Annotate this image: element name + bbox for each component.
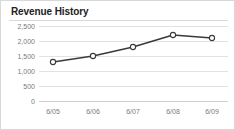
chart-plot-area: 2,500 2,000 1,500 1,000 500 0 6/05 6/06 … xyxy=(1,1,235,130)
x-tick-label-2: 6/06 xyxy=(86,108,100,115)
data-point-marker[interactable] xyxy=(209,35,214,40)
x-axis-tick-labels: 6/05 6/06 6/07 6/08 6/09 xyxy=(46,108,219,115)
y-tick-label-2000: 2,000 xyxy=(17,38,35,45)
y-tick-label-1000: 1,000 xyxy=(17,68,35,75)
y-tick-label-1500: 1,500 xyxy=(17,53,35,60)
x-tick-label-5: 6/09 xyxy=(205,108,219,115)
x-tick-label-3: 6/07 xyxy=(126,108,140,115)
x-tick-label-1: 6/05 xyxy=(46,108,60,115)
y-tick-label-500: 500 xyxy=(23,83,35,90)
y-tick-label-0: 0 xyxy=(31,98,35,105)
data-point-marker[interactable] xyxy=(90,53,95,58)
y-tick-label-2500: 2,500 xyxy=(17,23,35,30)
data-point-marker[interactable] xyxy=(170,32,175,37)
x-tick-label-4: 6/08 xyxy=(166,108,180,115)
line-chart-svg: 2,500 2,000 1,500 1,000 500 0 6/05 6/06 … xyxy=(1,1,235,130)
y-axis-tick-labels: 2,500 2,000 1,500 1,000 500 0 xyxy=(17,23,35,105)
data-point-marker[interactable] xyxy=(130,44,135,49)
revenue-history-chart-card: Revenue History 2,500 2,000 1,500 1,000 … xyxy=(0,0,235,130)
data-point-marker[interactable] xyxy=(50,59,55,64)
revenue-series-markers xyxy=(50,32,214,64)
